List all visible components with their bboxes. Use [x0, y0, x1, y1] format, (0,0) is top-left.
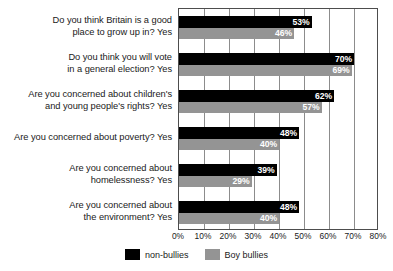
category-label-line: Are you concerned about	[0, 163, 172, 174]
legend-item-boy-bullies: Boy bullies	[205, 249, 269, 260]
category-label-line: homelessness? Yes	[0, 175, 172, 186]
bar-boy-bullies: 40%	[179, 213, 279, 225]
legend-swatch	[125, 249, 140, 260]
chart-legend: non-bulliesBoy bullies	[0, 249, 393, 260]
bar-value-label: 62%	[315, 91, 334, 101]
category-label: Are you concerned aboutthe environment? …	[0, 200, 172, 222]
category-label-line: in a general election? Yes	[0, 64, 172, 75]
x-tick-label: 60%	[320, 231, 337, 241]
gridline	[354, 9, 355, 229]
legend-label: non-bullies	[145, 250, 189, 260]
bar-value-label: 48%	[280, 128, 299, 138]
category-label: Are you concerned about poverty? Yes	[0, 132, 172, 143]
category-label-line: Are you concerned about children's	[0, 89, 172, 100]
bar-non-bullies: 48%	[179, 127, 299, 139]
bar-boy-bullies: 69%	[179, 65, 352, 77]
bar-value-label: 53%	[293, 17, 312, 27]
plot-area: 53%46%70%69%62%57%48%40%39%29%48%40%	[178, 8, 378, 230]
bar-non-bullies: 39%	[179, 164, 277, 176]
category-label-line: Do you think Britain is a good	[0, 15, 172, 26]
legend-item-non-bullies: non-bullies	[125, 249, 189, 260]
x-tick-label: 0%	[172, 231, 184, 241]
x-tick-label: 10%	[195, 231, 212, 241]
bar-value-label: 69%	[333, 65, 352, 75]
bar-boy-bullies: 57%	[179, 102, 322, 114]
bar-value-label: 70%	[335, 54, 354, 64]
x-axis-tick-labels: 0%10%20%30%40%50%60%70%80%	[178, 231, 378, 245]
category-label-line: place to grow up in? Yes	[0, 27, 172, 38]
bar-non-bullies: 62%	[179, 90, 334, 102]
gridline	[279, 9, 280, 229]
bar-value-label: 40%	[260, 213, 279, 223]
gridline	[204, 9, 205, 229]
gridline	[254, 9, 255, 229]
category-label: Are you concerned abouthomelessness? Yes	[0, 163, 172, 185]
bar-non-bullies: 53%	[179, 16, 312, 28]
bar-chart: Do you think Britain is a goodplace to g…	[0, 0, 393, 271]
gridline	[304, 9, 305, 229]
category-label-line: Are you concerned about poverty? Yes	[0, 132, 172, 143]
category-label: Are you concerned about children'sand yo…	[0, 89, 172, 111]
category-label-line: Are you concerned about	[0, 200, 172, 211]
bar-non-bullies: 48%	[179, 201, 299, 213]
bar-value-label: 46%	[275, 28, 294, 38]
category-label: Do you think you will votein a general e…	[0, 52, 172, 74]
category-label-line: the environment? Yes	[0, 212, 172, 223]
category-axis-labels: Do you think Britain is a goodplace to g…	[0, 8, 172, 230]
bar-value-label: 48%	[280, 202, 299, 212]
bar-value-label: 57%	[303, 102, 322, 112]
x-tick-label: 50%	[295, 231, 312, 241]
category-label-line: and young people's rights? Yes	[0, 101, 172, 112]
gridline	[229, 9, 230, 229]
bar-value-label: 29%	[233, 176, 252, 186]
x-tick-label: 40%	[270, 231, 287, 241]
gridline	[329, 9, 330, 229]
x-tick-label: 30%	[245, 231, 262, 241]
bar-boy-bullies: 46%	[179, 28, 294, 40]
bar-boy-bullies: 29%	[179, 176, 252, 188]
bar-non-bullies: 70%	[179, 53, 354, 65]
category-label: Do you think Britain is a goodplace to g…	[0, 15, 172, 37]
legend-swatch	[205, 249, 220, 260]
legend-label: Boy bullies	[225, 250, 269, 260]
x-tick-label: 80%	[370, 231, 387, 241]
bar-value-label: 40%	[260, 139, 279, 149]
bar-value-label: 39%	[258, 165, 277, 175]
x-tick-label: 70%	[345, 231, 362, 241]
category-label-line: Do you think you will vote	[0, 52, 172, 63]
bar-boy-bullies: 40%	[179, 139, 279, 151]
x-tick-label: 20%	[220, 231, 237, 241]
